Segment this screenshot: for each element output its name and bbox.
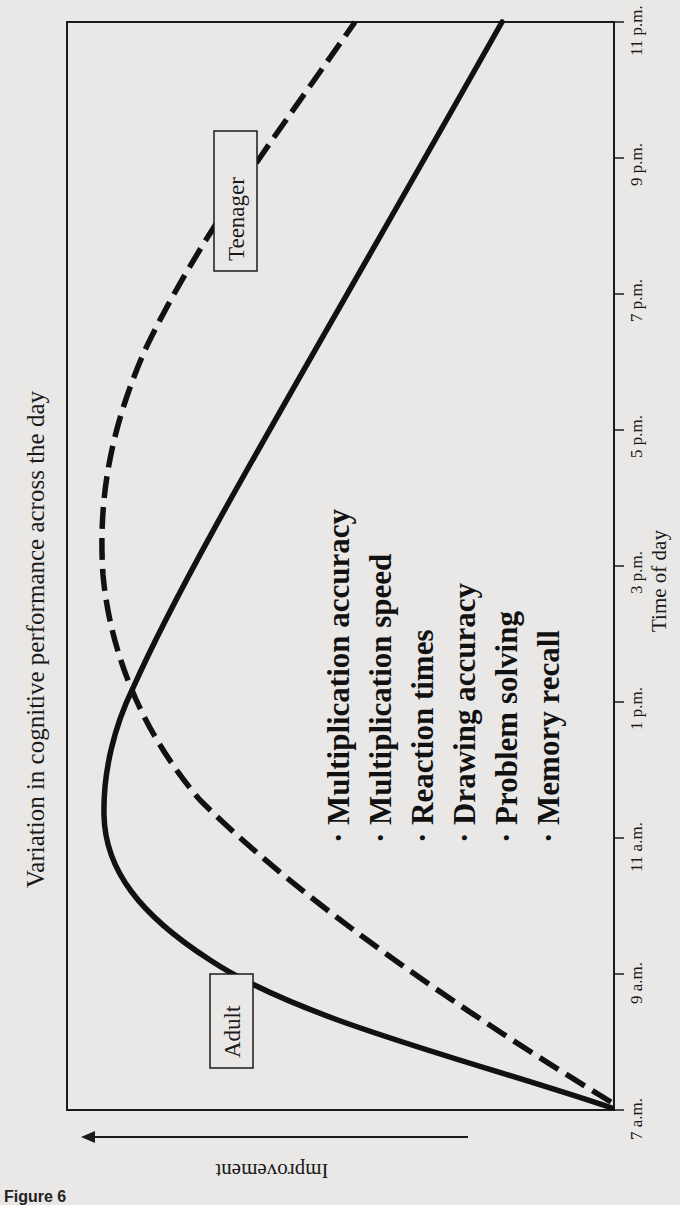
task-item: · Multiplication accuracy xyxy=(321,508,356,843)
improvement-arrow xyxy=(81,1131,468,1143)
teenager-label: Teenager xyxy=(214,131,257,271)
adult-label-text: Adult xyxy=(220,1005,245,1058)
tick-label-7pm: 7 p.m. xyxy=(627,279,646,322)
figure-caption: Figure 6 xyxy=(4,1188,66,1205)
task-item: · Drawing accuracy xyxy=(447,582,482,843)
tick-label-9am: 9 a.m. xyxy=(627,962,646,1004)
tick-label-1pm: 1 p.m. xyxy=(627,687,646,730)
tick-label-11pm: 11 p.m. xyxy=(627,5,646,56)
adult-label: Adult xyxy=(210,974,253,1068)
chart: 7 a.m. 9 a.m. 11 a.m. 1 p.m. 3 p.m. 5 p.… xyxy=(0,0,680,1205)
chart-title: Variation in cognitive performance acros… xyxy=(22,390,49,888)
task-item: · Memory recall xyxy=(531,630,566,843)
y-axis-title: Improvement xyxy=(215,1159,328,1183)
tick-label-5pm: 5 p.m. xyxy=(627,415,646,458)
teenager-label-text: Teenager xyxy=(224,177,249,261)
tick-label-9pm: 9 p.m. xyxy=(627,143,646,186)
task-item: · Reaction times xyxy=(405,629,440,843)
time-axis-ticks xyxy=(614,22,624,1110)
adult-curve xyxy=(104,22,612,1108)
tick-label-7am: 7 a.m. xyxy=(627,1098,646,1140)
task-list: · Multiplication accuracy · Multiplicati… xyxy=(321,508,566,843)
tick-label-11am: 11 a.m. xyxy=(627,822,646,872)
tick-label-3pm: 3 p.m. xyxy=(627,551,646,594)
arrow-head-icon xyxy=(81,1131,95,1143)
task-item: · Problem solving xyxy=(489,611,524,843)
task-item: · Multiplication speed xyxy=(363,554,398,843)
x-axis-title: Time of day xyxy=(647,530,671,632)
time-axis-labels: 7 a.m. 9 a.m. 11 a.m. 1 p.m. 3 p.m. 5 p.… xyxy=(627,5,646,1140)
